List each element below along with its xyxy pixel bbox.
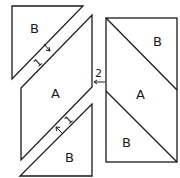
- label-a-right: A: [136, 87, 145, 102]
- quilt-assembly-diagram: B A B 1 1 B A B 2: [0, 0, 180, 178]
- arrow-up-left-icon: [56, 127, 62, 133]
- left-parallelogram-a: A: [21, 15, 92, 160]
- label-b-bottom-left: B: [65, 150, 74, 165]
- step-number-2: 2: [95, 67, 102, 80]
- label-a-left: A: [51, 86, 60, 101]
- label-b-top-left: B: [30, 21, 39, 36]
- step-number-1-top: 1: [31, 56, 45, 70]
- label-b-bottom-right: B: [122, 135, 131, 150]
- arrow-left-icon: [94, 80, 105, 84]
- left-bottom-triangle-b: B: [20, 104, 92, 176]
- label-b-top-right: B: [153, 34, 162, 49]
- left-top-triangle-b: B: [12, 6, 83, 79]
- step-2-join: 2: [94, 67, 105, 84]
- step-1-top: 1: [31, 44, 50, 70]
- right-pieced-square: B A B: [106, 18, 177, 162]
- step-number-1-bottom: 1: [62, 113, 76, 127]
- arrow-down-right-icon: [44, 44, 50, 51]
